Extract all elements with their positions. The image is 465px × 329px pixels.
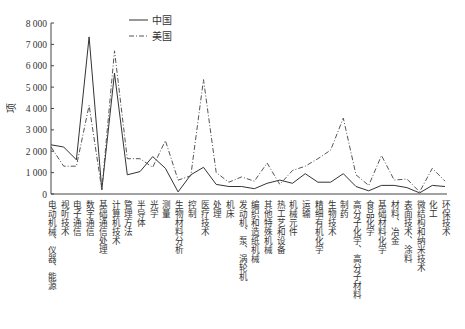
x-category-label: 光学 — [148, 199, 158, 218]
x-category-label: 医疗技术 — [199, 200, 209, 237]
legend: 中国 美国 — [129, 14, 172, 42]
x-category-label: 处理 — [211, 199, 221, 218]
x-category-label: 控制 — [186, 199, 196, 218]
x-category-label: 机械元件 — [287, 199, 297, 237]
y-tick-label: 8 000 — [26, 19, 48, 29]
y-tick-label: 0 — [42, 190, 47, 200]
x-category-label: 生物材料分析 — [173, 199, 183, 255]
x-category-label: 机床 — [224, 199, 234, 219]
y-tick-label: 1 000 — [26, 168, 48, 178]
x-category-label: 化工 — [427, 199, 437, 218]
x-category-label: 数字通信 — [84, 199, 94, 237]
line-chart: 01 0002 0003 0004 0005 0006 0007 0008 00… — [0, 0, 465, 329]
y-tick-label: 7 000 — [26, 40, 48, 50]
series-line-china — [51, 37, 445, 193]
x-category-label: 材料、冶金 — [389, 199, 399, 245]
x-category-label: 微结构和纳米技术 — [415, 199, 425, 273]
y-tick-label: 5 000 — [26, 83, 48, 93]
x-category-label: 环保技术 — [440, 200, 450, 237]
x-category-label: 基础通信处理 — [97, 199, 107, 254]
x-category-label: 生物技术 — [326, 199, 336, 237]
legend-label-china: 中国 — [152, 14, 172, 26]
x-category-label: 计算机技术 — [110, 199, 120, 246]
y-axis-label: 项 — [6, 103, 17, 113]
y-tick-label: 2 000 — [26, 147, 48, 157]
x-category-label: 测量 — [160, 200, 170, 218]
series-line-usa — [51, 51, 445, 192]
y-tick-label: 4 000 — [26, 104, 48, 114]
x-category-label: 高分子化学、高分子材料 — [351, 199, 361, 300]
x-category-label: 表面技术、涂料 — [402, 199, 412, 264]
x-category-label: 运输 — [300, 200, 310, 219]
y-axis-ticks: 01 0002 0003 0004 0005 0006 0007 0008 00… — [26, 19, 54, 200]
x-category-label: 视听技术 — [59, 199, 69, 237]
x-category-label: 其他特殊机械 — [262, 200, 272, 255]
y-tick-label: 3 000 — [26, 125, 48, 135]
x-category-label: 编织和造纸机械 — [249, 199, 259, 264]
x-axis-category-labels: 电动机械、仪器、能源视听技术电子通信数字通信基础通信处理计算机技术管理方法半导体… — [46, 199, 450, 300]
legend-label-usa: 美国 — [152, 30, 172, 42]
plot-area — [51, 37, 445, 193]
x-category-label: 制药 — [338, 199, 348, 219]
x-category-label: 精细有机化学 — [313, 199, 323, 254]
x-category-label: 电子通信 — [71, 199, 81, 237]
x-category-label: 电动机械、仪器、能源 — [46, 199, 56, 291]
x-category-label: 发动机、泵、涡轮机 — [237, 199, 247, 282]
x-category-label: 基础材料化学 — [376, 199, 386, 254]
y-tick-label: 6 000 — [26, 61, 48, 71]
x-category-label: 食品化学 — [364, 199, 374, 236]
x-category-label: 热工艺和设备 — [275, 199, 285, 254]
x-category-label: 半导体 — [135, 199, 145, 228]
x-category-label: 管理方法 — [122, 199, 132, 237]
